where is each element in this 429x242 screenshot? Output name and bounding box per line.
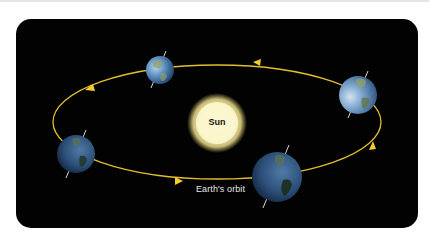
earth-top [146,51,174,88]
arrow-icon [253,59,261,66]
orbit-label: Earth's orbit [196,184,245,194]
earth-left [57,130,95,178]
sun-label: Sun [187,117,247,127]
earth-right [339,71,377,118]
earth-bottom-right [252,145,302,208]
